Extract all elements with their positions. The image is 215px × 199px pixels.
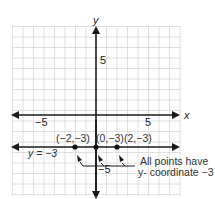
line-equation: y = −3 bbox=[27, 147, 57, 159]
x-tick-5: 5 bbox=[145, 116, 151, 128]
point-label: (2,−3) bbox=[124, 132, 152, 144]
y-axis-label: y bbox=[92, 14, 100, 26]
point bbox=[93, 144, 98, 149]
y-tick-neg5: −5 bbox=[98, 163, 111, 175]
x-axis-label: x bbox=[183, 109, 190, 121]
point bbox=[72, 144, 77, 149]
point-label: (−2,−3) bbox=[56, 132, 90, 144]
y-tick-5: 5 bbox=[100, 54, 106, 66]
coordinate-plane: y x 5 −5 −5 5 (−2,−3) (0,−3) (2,−3) y = … bbox=[0, 0, 215, 199]
x-tick-neg5: −5 bbox=[35, 116, 48, 128]
point-label: (0,−3) bbox=[96, 132, 124, 144]
point bbox=[114, 144, 119, 149]
annotation-line2: y- coordinate −3 bbox=[138, 166, 214, 178]
